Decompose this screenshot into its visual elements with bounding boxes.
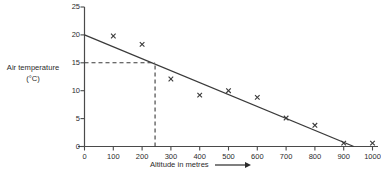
data-point-marker [111, 34, 116, 39]
x-axis-ticks [85, 147, 373, 151]
x-tick-label: 700 [280, 153, 293, 161]
line-of-best-fit [85, 35, 354, 147]
axes [78, 7, 378, 147]
x-axis-title: Altitude in metres [150, 160, 251, 169]
y-tick-label: 0 [58, 143, 80, 151]
y-tick-label: 10 [58, 87, 80, 95]
x-tick-label: 100 [107, 153, 120, 161]
data-point-marker [197, 93, 202, 98]
y-tick-label: 5 [58, 115, 80, 123]
x-tick-label: 0 [82, 153, 86, 161]
y-axis-title: Air temperature (°C) [2, 62, 64, 84]
y-axis-title-text: Air temperature [7, 63, 59, 72]
data-point-marker [370, 141, 375, 146]
data-point-marker [255, 95, 260, 100]
x-tick-label: 200 [136, 153, 149, 161]
data-point-marker [169, 77, 174, 82]
x-axis-title-text: Altitude in metres [150, 160, 209, 169]
x-tick-label: 900 [337, 153, 350, 161]
data-point-marker [140, 42, 145, 47]
y-axis-unit-text: (°C) [2, 73, 64, 84]
data-points [111, 34, 375, 146]
y-tick-label: 25 [58, 3, 80, 11]
x-tick-label: 600 [251, 153, 264, 161]
data-point-marker [313, 123, 318, 128]
x-tick-label: 800 [309, 153, 322, 161]
data-point-marker [226, 88, 231, 93]
y-tick-label: 20 [58, 31, 80, 39]
x-tick-label: 1000 [364, 153, 381, 161]
arrow-right-icon [215, 161, 251, 169]
construction-lines [85, 63, 156, 147]
best-fit-line [85, 35, 354, 147]
